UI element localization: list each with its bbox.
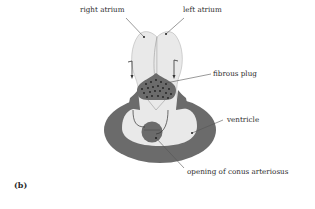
- neck-flank-right: [176, 90, 188, 110]
- label-fibrous-plug: fibrous plug: [213, 70, 257, 77]
- label-ventricle: ventricle: [227, 116, 259, 123]
- label-right-atrium: right atrium: [80, 6, 125, 13]
- panel-label: (b): [14, 181, 27, 189]
- label-conus-opening: opening of conus arteriosus: [187, 168, 288, 175]
- heart-diagram-graphic: [0, 0, 315, 209]
- label-left-atrium: left atrium: [183, 6, 222, 13]
- heart-diagram: right atrium left atrium fibrous plug ve…: [0, 0, 315, 209]
- conus-arteriosus-shape: [142, 122, 163, 143]
